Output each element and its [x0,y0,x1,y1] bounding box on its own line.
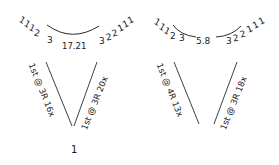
shaping-diagram-canvas: 1 1 1 2 3 17.21 3 2 2 1 1 1 1st @ 3R 16x… [0,0,279,165]
right-dec-left-4: 2 [170,32,176,41]
right-dec-left-5: 3 [179,34,185,43]
left-dec-right-1: 3 [99,37,105,46]
left-dec-left-5: 3 [47,36,53,45]
right-center-value: 5.8 [196,37,210,46]
left-bottom-value: 1 [71,145,77,155]
left-center-value: 17.21 [62,42,86,51]
right-dec-right-1: 3 [226,37,232,46]
left-neck-arc [47,25,99,34]
